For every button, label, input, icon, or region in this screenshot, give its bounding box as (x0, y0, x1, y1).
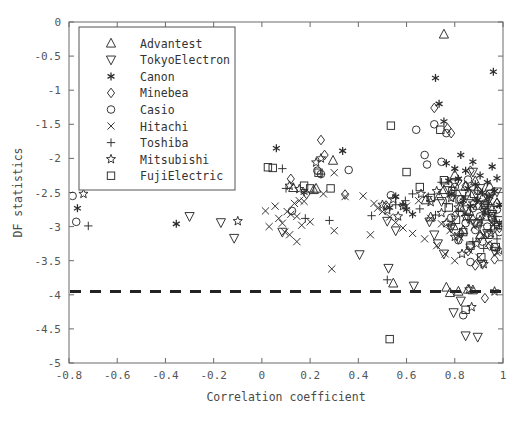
legend: AdvantestTokyoElectronCanonMinebeaCasioH… (79, 27, 235, 190)
legend-label-minebea: Minebea (140, 86, 188, 100)
legend-label-fujielectric: FujiElectric (140, 169, 223, 183)
y-tick-label: -5 (48, 357, 61, 370)
y-tick-label: -1 (48, 84, 61, 97)
legend-label-advantest: Advantest (140, 37, 202, 51)
x-tick-label: 0.4 (348, 369, 368, 382)
y-tick-label: -4.5 (35, 323, 62, 336)
y-tick-label: -0.5 (35, 50, 62, 63)
y-tick-label: -2 (48, 152, 61, 165)
series-advantest (289, 29, 502, 296)
x-tick-label: -0.4 (152, 369, 179, 382)
scatter-plot-figure: -0.8-0.6-0.4-0.200.20.40.60.810-0.5-1-1.… (0, 0, 531, 425)
y-tick-label: -4 (48, 289, 62, 302)
y-tick-label: -2.5 (35, 187, 62, 200)
series-fujielectric (264, 122, 502, 343)
x-tick-label: 0.8 (445, 369, 465, 382)
legend-label-casio: Casio (140, 103, 175, 117)
y-tick-label: -3.5 (35, 255, 62, 268)
legend-label-mitsubishi: Mitsubishi (140, 153, 209, 167)
x-tick-label: 0.6 (397, 369, 417, 382)
x-tick-label: 0 (259, 369, 266, 382)
legend-label-hitachi: Hitachi (140, 120, 189, 134)
plot-canvas: -0.8-0.6-0.4-0.200.20.40.60.810-0.5-1-1.… (0, 0, 531, 425)
y-tick-label: -1.5 (35, 118, 62, 131)
legend-label-canon: Canon (140, 70, 175, 84)
x-tick-label: -0.2 (200, 369, 227, 382)
legend-label-tokyoelectron: TokyoElectron (140, 53, 230, 67)
x-tick-label: -0.6 (104, 369, 131, 382)
x-axis-label: Correlation coefficient (206, 390, 365, 404)
y-tick-label: -3 (48, 221, 61, 234)
x-tick-label: 1 (500, 369, 507, 382)
y-axis-label: DF statistics (11, 147, 25, 237)
legend-label-toshiba: Toshiba (140, 136, 188, 150)
y-tick-label: 0 (54, 16, 61, 29)
x-tick-label: -0.8 (56, 369, 83, 382)
x-tick-label: 0.2 (300, 369, 320, 382)
